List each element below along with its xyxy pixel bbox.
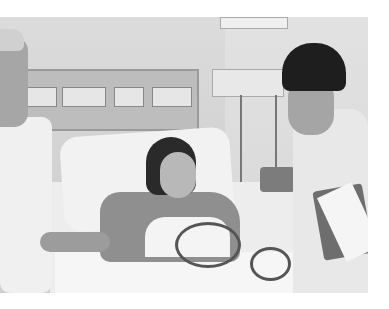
iv-tube bbox=[175, 222, 241, 268]
medical-device bbox=[260, 167, 295, 192]
iv-tube bbox=[250, 247, 291, 281]
hospital-photo bbox=[0, 17, 368, 293]
wall-sign bbox=[220, 17, 288, 29]
nurse-left-arm bbox=[40, 232, 110, 252]
wall-equipment bbox=[212, 69, 284, 97]
socket bbox=[62, 87, 106, 107]
nurse-right-hair bbox=[282, 43, 346, 91]
socket bbox=[114, 87, 144, 107]
nurse-left-cap bbox=[0, 29, 24, 51]
socket bbox=[27, 87, 57, 107]
patient-face bbox=[160, 152, 196, 198]
cable bbox=[240, 95, 242, 195]
nurse-left-uniform bbox=[0, 117, 52, 293]
socket bbox=[152, 87, 192, 107]
